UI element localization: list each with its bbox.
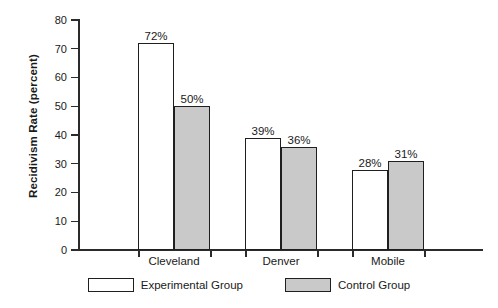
legend-item-experimental[interactable]: Experimental Group — [88, 278, 243, 292]
x-axis-label-denver: Denver — [262, 255, 299, 267]
y-axis-tick: 10 — [71, 221, 78, 222]
x-axis-tick — [245, 250, 247, 257]
bar-denver-experimental: 39% — [245, 138, 281, 250]
chart-legend: Experimental GroupControl Group — [0, 278, 498, 292]
y-axis-title: Recidivism Rate (percent) — [27, 21, 39, 231]
legend-label: Control Group — [338, 279, 410, 291]
y-axis-tick: 60 — [71, 77, 78, 78]
legend-label: Experimental Group — [141, 279, 243, 291]
y-axis-tick-label: 40 — [55, 129, 67, 141]
bar-mobile-control: 31% — [388, 161, 424, 250]
y-axis-tick: 70 — [71, 48, 78, 49]
bar-denver-control: 36% — [281, 147, 317, 251]
legend-item-control[interactable]: Control Group — [285, 278, 410, 292]
y-axis-tick-label: 0 — [61, 244, 67, 256]
y-axis-tick: 30 — [71, 163, 78, 164]
bar-value-label: 39% — [251, 125, 274, 137]
y-axis-tick: 50 — [71, 106, 78, 107]
bar-value-label: 36% — [287, 134, 310, 146]
y-axis-tick-label: 50 — [55, 100, 67, 112]
bar-value-label: 50% — [180, 93, 203, 105]
bar-chart: Recidivism Rate (percent) 01020304050607… — [0, 0, 498, 308]
y-axis-tick: 20 — [71, 192, 78, 193]
legend-swatch-experimental — [88, 278, 134, 292]
bar-mobile-experimental: 28% — [352, 170, 388, 251]
y-axis-tick-label: 60 — [55, 71, 67, 83]
bar-cleveland-control: 50% — [174, 106, 210, 250]
y-axis-tick-label: 10 — [55, 215, 67, 227]
plot-area: 72%50%39%36%28%31% — [78, 20, 483, 250]
y-axis-tick: 40 — [71, 134, 78, 135]
bar-value-label: 31% — [394, 148, 417, 160]
x-axis-tick — [424, 250, 426, 257]
x-axis-tick — [317, 250, 319, 257]
y-axis-tick-label: 70 — [55, 43, 67, 55]
legend-swatch-control — [285, 278, 331, 292]
y-axis-tick-label: 20 — [55, 186, 67, 198]
y-axis-tick-label: 30 — [55, 158, 67, 170]
bar-value-label: 28% — [358, 157, 381, 169]
x-axis-label-mobile: Mobile — [371, 255, 405, 267]
x-axis-tick — [352, 250, 354, 257]
x-axis-tick — [210, 250, 212, 257]
y-axis-tick: 80 — [71, 19, 78, 20]
y-axis-tick-label: 80 — [55, 14, 67, 26]
x-axis-label-cleveland: Cleveland — [148, 255, 199, 267]
bar-cleveland-experimental: 72% — [138, 43, 174, 250]
x-axis-tick — [138, 250, 140, 257]
bar-value-label: 72% — [144, 30, 167, 42]
y-axis-tick: 0 — [71, 249, 78, 250]
